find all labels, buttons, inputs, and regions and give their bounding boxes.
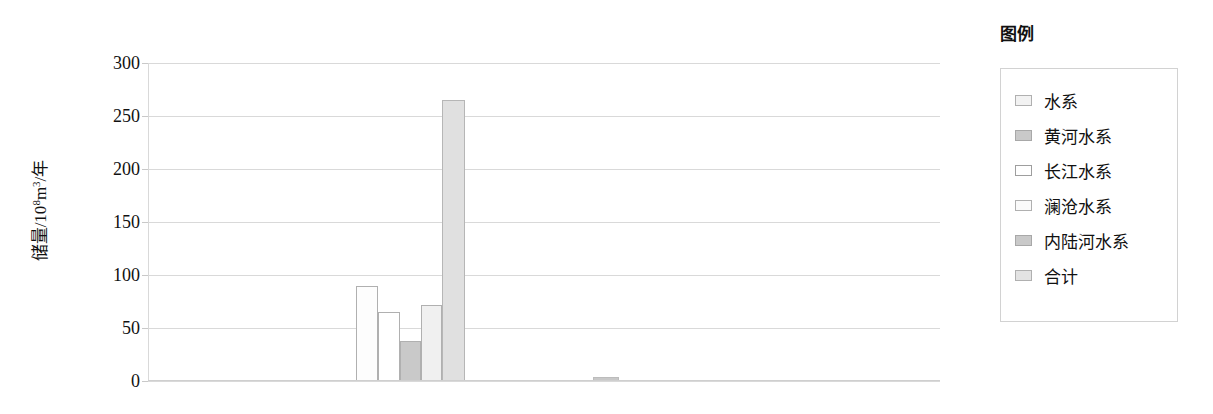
legend-item-label: 水系	[1044, 88, 1078, 113]
bar-series	[148, 63, 940, 381]
bar-0[interactable]	[356, 286, 378, 381]
y-tick-label-250: 250	[94, 106, 140, 127]
legend-item-5[interactable]: 合计	[1015, 258, 1169, 293]
y-tick-label-200: 200	[94, 159, 140, 180]
legend-item-label: 澜沧水系	[1044, 193, 1112, 218]
legend-item-label: 黄河水系	[1044, 123, 1112, 148]
legend-swatch-icon	[1015, 235, 1032, 246]
y-tick-label-0: 0	[94, 371, 140, 392]
y-tick-mark-200	[142, 169, 148, 170]
y-tick-mark-50	[142, 328, 148, 329]
legend-list: 水系黄河水系长江水系澜沧水系内陆河水系合计	[1015, 83, 1169, 293]
legend-item-2[interactable]: 长江水系	[1015, 153, 1169, 188]
legend-swatch-icon	[1015, 200, 1032, 211]
legend-item-label: 合计	[1044, 263, 1078, 288]
bar-2[interactable]	[400, 341, 421, 381]
legend-swatch-icon	[1015, 95, 1032, 106]
y-axis-tick-labels: 050100150200250300	[88, 63, 140, 381]
legend-swatch-icon	[1015, 130, 1032, 141]
y-tick-label-150: 150	[94, 212, 140, 233]
legend-box: 水系黄河水系长江水系澜沧水系内陆河水系合计	[1000, 68, 1178, 322]
y-tick-mark-0	[142, 381, 148, 382]
y-tick-label-50: 50	[94, 318, 140, 339]
legend-item-0[interactable]: 水系	[1015, 83, 1169, 118]
gridline-0	[148, 381, 940, 382]
bar-4[interactable]	[442, 100, 465, 381]
y-tick-mark-100	[142, 275, 148, 276]
y-tick-label-300: 300	[94, 53, 140, 74]
y-tick-label-100: 100	[94, 265, 140, 286]
legend-item-label: 内陆河水系	[1044, 228, 1129, 253]
bar-3[interactable]	[421, 305, 442, 381]
y-tick-mark-150	[142, 222, 148, 223]
legend-item-4[interactable]: 内陆河水系	[1015, 223, 1169, 258]
y-tick-mark-300	[142, 63, 148, 64]
legend-swatch-icon	[1015, 165, 1032, 176]
legend-item-label: 长江水系	[1044, 158, 1112, 183]
legend-swatch-icon	[1015, 270, 1032, 281]
legend-title: 图例	[1000, 20, 1034, 45]
y-tick-mark-250	[142, 116, 148, 117]
legend-item-3[interactable]: 澜沧水系	[1015, 188, 1169, 223]
plot-wrapper: 050100150200250300	[0, 0, 980, 414]
legend-item-1[interactable]: 黄河水系	[1015, 118, 1169, 153]
chart-root: 储量/108m3/年 050100150200250300 图例 水系黄河水系长…	[0, 0, 1213, 414]
x-axis-line	[148, 380, 940, 381]
bar-1[interactable]	[378, 312, 400, 381]
